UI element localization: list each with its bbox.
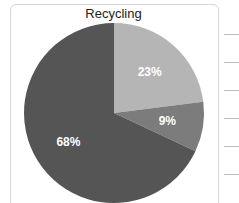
rule-line: [224, 174, 239, 175]
pie-chart: 23%9%68%: [0, 0, 239, 203]
slice-label: 23%: [138, 65, 162, 79]
rule-line: [224, 62, 239, 63]
slice-label: 68%: [56, 135, 80, 149]
rule-line: [224, 146, 239, 147]
slice-label: 9%: [159, 114, 177, 128]
rule-line: [224, 90, 239, 91]
rule-line: [224, 34, 239, 35]
rule-line: [224, 118, 239, 119]
